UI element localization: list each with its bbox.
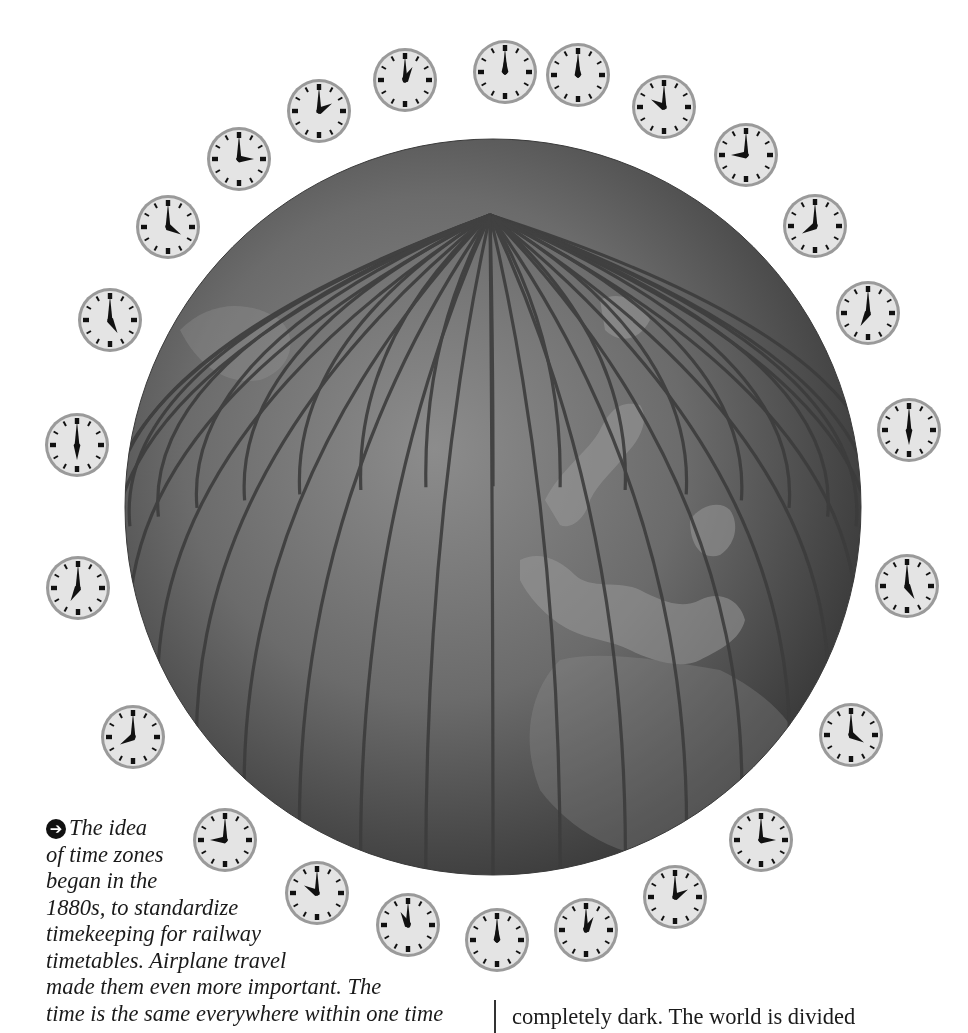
caption-line-0: ➔The idea — [46, 815, 486, 842]
page: ➔The idea of time zones began in the 188… — [0, 0, 968, 1033]
caption-line-7: time is the same everywhere within one t… — [46, 1001, 486, 1028]
clock-icon — [43, 411, 111, 479]
clock-icon — [712, 121, 780, 189]
clock-icon — [205, 125, 273, 193]
body-text: completely dark. The world is divided — [512, 1003, 855, 1031]
clock-icon — [44, 554, 112, 622]
clock-icon — [552, 896, 620, 964]
clock-icon — [727, 806, 795, 874]
clock-icon — [630, 73, 698, 141]
clock-icon — [544, 41, 612, 109]
caption-line-2: began in the — [46, 868, 486, 895]
clock-icon — [371, 46, 439, 114]
arrow-right-icon: ➔ — [46, 819, 66, 839]
clock-icon — [134, 193, 202, 261]
clock-icon — [76, 286, 144, 354]
clock-icon — [834, 279, 902, 347]
clock-icon — [641, 863, 709, 931]
clock-icon — [285, 77, 353, 145]
caption-line-5: timetables. Airplane travel — [46, 948, 486, 975]
clock-icon — [875, 396, 943, 464]
clock-icon — [873, 552, 941, 620]
caption-line-3: 1880s, to standardize — [46, 895, 486, 922]
clock-icon — [781, 192, 849, 260]
caption-line-4: timekeeping for railway — [46, 921, 486, 948]
clock-icon — [99, 703, 167, 771]
clock-icon — [817, 701, 885, 769]
caption-line-1: of time zones — [46, 842, 486, 869]
column-divider — [494, 1000, 496, 1033]
clock-icon — [471, 38, 539, 106]
figure-caption: ➔The idea of time zones began in the 188… — [46, 815, 486, 1027]
caption-line-6: made them even more important. The — [46, 974, 486, 1001]
